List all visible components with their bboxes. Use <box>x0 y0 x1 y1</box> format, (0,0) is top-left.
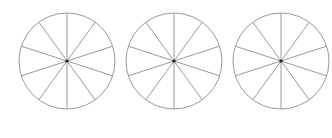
sector-divider <box>146 22 174 61</box>
sector-divider <box>21 46 67 61</box>
sector-divider <box>39 22 67 61</box>
sector-divider <box>281 61 309 100</box>
sector-divider <box>281 61 327 76</box>
circle-1 <box>19 13 115 109</box>
circle-3 <box>233 13 329 109</box>
sector-divider <box>235 46 281 61</box>
sector-divider <box>174 46 220 61</box>
sector-divider <box>281 22 309 61</box>
center-dot <box>172 59 175 62</box>
fraction-circles-diagram <box>0 0 332 138</box>
sector-divider <box>21 61 67 76</box>
sector-divider <box>67 22 95 61</box>
sector-divider <box>67 61 113 76</box>
circle-2 <box>126 13 222 109</box>
sector-divider <box>174 61 202 100</box>
sector-divider <box>39 61 67 100</box>
sector-divider <box>146 61 174 100</box>
sector-divider <box>253 22 281 61</box>
center-dot <box>279 59 282 62</box>
center-dot <box>65 59 68 62</box>
sector-divider <box>67 61 95 100</box>
sector-divider <box>128 61 174 76</box>
sector-divider <box>235 61 281 76</box>
sector-divider <box>67 46 113 61</box>
sector-divider <box>174 22 202 61</box>
sector-divider <box>281 46 327 61</box>
diagram-svg <box>0 0 332 138</box>
sector-divider <box>253 61 281 100</box>
sector-divider <box>128 46 174 61</box>
sector-divider <box>174 61 220 76</box>
